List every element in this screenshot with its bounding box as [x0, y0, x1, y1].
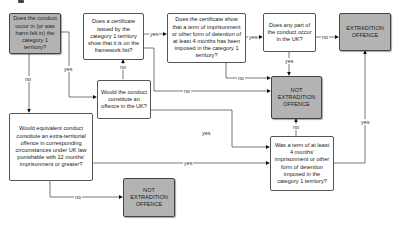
node-text: NOT EXTRADITION OFFENCE [274, 87, 319, 109]
node-text: EXTRADITION OFFENCE [342, 25, 388, 39]
node-text: Does the certificate show that a term of… [170, 16, 243, 59]
terminal-not-extradition-offence-mid: NOT EXTRADITION OFFENCE [271, 76, 322, 119]
edge-label-h-yes: yes [183, 160, 193, 166]
edge-label-i-no: no [292, 124, 300, 130]
edge-label-a-yes: yes [63, 66, 73, 72]
edge-label-d-yes: yes [284, 58, 294, 64]
edge-label-h-no: no [74, 194, 82, 200]
edge-label-b-yes: yes [149, 31, 159, 37]
decision-offence-in-uk: Would the conduct constitute an offence … [97, 80, 151, 119]
edge-label-b-no: no [183, 88, 191, 94]
node-text: Does any part of the conduct occur in th… [266, 22, 313, 44]
node-text: Was a term of at least 4 months' impriso… [273, 142, 331, 185]
node-text: Would the conduct constitute an offence … [100, 89, 148, 111]
edge-label-f-yes: yes [201, 130, 211, 136]
terminal-extradition-offence: EXTRADITION OFFENCE [339, 13, 391, 51]
decision-any-part-uk: Does any part of the conduct occur in th… [263, 13, 316, 52]
edge-label-c-no: no [237, 75, 245, 81]
terminal-not-extradition-offence-bottom: NOT EXTRADITION OFFENCE [123, 178, 175, 217]
node-text: Would equivalent conduct constitute an e… [12, 125, 90, 168]
edge-label-d-no: no [321, 34, 329, 40]
edge-label-i-yes: yes [360, 119, 370, 125]
node-text: NOT EXTRADITION OFFENCE [126, 187, 172, 209]
decision-certificate-term: Does the certificate show that a term of… [167, 13, 246, 63]
decision-certificate-framework: Does a certificate issued by the categor… [83, 13, 144, 60]
edge-label-a-no: no [24, 76, 32, 82]
edge-label-c-yes: yes [248, 34, 258, 40]
decision-term-imposed: Was a term of at least 4 months' impriso… [270, 136, 334, 191]
decision-conduct-in-territory: Does the conduct occur in (or was harm f… [9, 13, 61, 54]
node-text: Does the conduct occur in (or was harm f… [12, 15, 58, 51]
edge-label-f-no: no [119, 64, 127, 70]
node-text: Does a certificate issued by the categor… [86, 18, 141, 54]
decision-extra-territorial: Would equivalent conduct constitute an e… [9, 113, 93, 181]
